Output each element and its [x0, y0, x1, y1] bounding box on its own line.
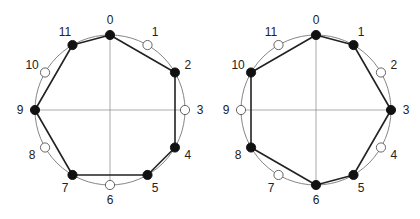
filled-node-9 [30, 105, 39, 114]
filled-node-3 [386, 105, 395, 114]
node-label-11: 11 [265, 25, 278, 39]
filled-node-5 [143, 170, 152, 179]
filled-node-1 [349, 40, 358, 49]
filled-node-11 [68, 40, 77, 49]
node-label-5: 5 [152, 181, 159, 195]
node-label-9: 9 [223, 103, 230, 117]
filled-node-8 [246, 143, 255, 152]
node-label-3: 3 [197, 103, 204, 117]
node-label-0: 0 [107, 13, 114, 27]
node-label-6: 6 [313, 193, 320, 207]
node-label-4: 4 [185, 148, 192, 162]
filled-node-5 [349, 170, 358, 179]
node-label-0: 0 [313, 13, 320, 27]
open-node-1 [143, 40, 152, 49]
left-clock-diagram: 01234567891011 [17, 13, 204, 207]
node-label-5: 5 [358, 181, 365, 195]
filled-node-0 [311, 30, 320, 39]
node-label-8: 8 [29, 148, 36, 162]
node-label-1: 1 [152, 25, 159, 39]
node-label-10: 10 [231, 58, 245, 72]
filled-node-0 [105, 30, 114, 39]
open-node-11 [274, 40, 283, 49]
polygon-edges [35, 35, 175, 175]
open-node-8 [40, 143, 49, 152]
filled-node-4 [170, 143, 179, 152]
node-label-7: 7 [62, 181, 69, 195]
filled-node-2 [170, 68, 179, 77]
node-label-8: 8 [235, 148, 242, 162]
right-clock-diagram: 01234567891011 [223, 13, 410, 207]
open-node-7 [274, 170, 283, 179]
node-label-11: 11 [59, 25, 72, 39]
node-label-4: 4 [391, 148, 398, 162]
open-node-9 [236, 105, 245, 114]
node-label-6: 6 [107, 193, 114, 207]
open-node-4 [376, 143, 385, 152]
filled-node-6 [311, 180, 320, 189]
open-node-6 [105, 180, 114, 189]
node-label-9: 9 [17, 103, 24, 117]
node-label-3: 3 [403, 103, 410, 117]
node-label-10: 10 [25, 58, 39, 72]
filled-node-7 [68, 170, 77, 179]
node-label-1: 1 [358, 25, 365, 39]
node-label-7: 7 [268, 181, 275, 195]
pitch-class-diagrams: 01234567891011 01234567891011 [0, 0, 420, 219]
open-node-3 [180, 105, 189, 114]
open-node-2 [376, 68, 385, 77]
filled-node-10 [246, 68, 255, 77]
node-label-2: 2 [391, 58, 398, 72]
node-label-2: 2 [185, 58, 192, 72]
open-node-10 [40, 68, 49, 77]
